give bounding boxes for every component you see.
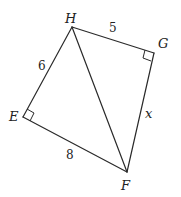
edge-label-he: 6 — [38, 59, 46, 73]
edge-he — [23, 27, 72, 117]
vertex-label-g: G — [158, 36, 168, 51]
vertex-label-h: H — [64, 11, 77, 26]
vertex-label-e: E — [8, 109, 19, 124]
vertex-label-f: F — [120, 178, 131, 193]
edge-ef — [23, 117, 127, 172]
edge-label-ef: 8 — [66, 148, 74, 162]
edge-hf-diagonal — [72, 27, 127, 172]
edge-label-gf: x — [145, 106, 153, 121]
edge-label-hg: 5 — [109, 21, 117, 35]
quadrilateral-diagram: H G E F 5 6 8 x — [0, 0, 181, 197]
